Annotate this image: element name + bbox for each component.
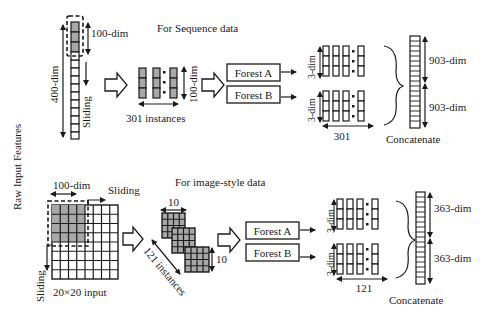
forest-b-class-vectors [323, 91, 364, 121]
concat-label: Concatenate [386, 133, 440, 145]
side-label: Raw Input Features [11, 124, 23, 210]
sliding-label: Sliding [80, 96, 92, 128]
image-forest-b-class-vectors [337, 244, 378, 274]
sequence-concat-vector [410, 36, 420, 128]
image-forest-a-label: Forest A [254, 225, 292, 237]
concat-brace [384, 46, 403, 125]
image-concat-vector [416, 192, 425, 284]
image-concat-top-dim: 363-dim [434, 202, 472, 214]
sliding-v-label: Sliding [34, 270, 46, 302]
image-concat-brace [396, 201, 415, 278]
image-window-dim-label: 100-dim [53, 179, 91, 191]
image-input-grid [52, 205, 118, 279]
instance-dim-label: 100-dim [187, 65, 199, 103]
flow-arrow-icon [123, 227, 143, 251]
image-section: For image-style data 100-dim Sliding Sli… [34, 176, 472, 306]
flow-arrow-icon [105, 73, 127, 97]
patch-width-label: 10 [168, 196, 180, 208]
forest-a-output-dim: 3-dim [306, 55, 317, 79]
sequence-section: For Sequence data 400-dim 100-dim [48, 16, 467, 145]
sliding-v-arrow [47, 245, 52, 270]
image-input-label: 20×20 input [53, 286, 107, 298]
window-dim-label: 100-dim [91, 27, 129, 39]
image-concat-label: Concatenate [389, 294, 443, 306]
image-forest-a-class-vectors [337, 199, 378, 229]
input-dim-label: 400-dim [48, 65, 60, 103]
concat-bottom-dim: 903-dim [429, 101, 467, 113]
image-patches [162, 213, 209, 272]
sequence-title: For Sequence data [157, 22, 238, 34]
flow-arrow-icon [202, 73, 224, 97]
sequence-instances [139, 68, 177, 98]
image-forest-b-label: Forest B [254, 247, 292, 259]
instances-label: 301 instances [126, 112, 186, 124]
forest-b-label: Forest B [235, 89, 273, 101]
sliding-h-label: Sliding [108, 184, 140, 196]
multi-grained-scanning-diagram: Raw Input Features For Sequence data 400… [0, 0, 487, 322]
forest-a-class-vectors [323, 46, 364, 76]
sequence-input-column [71, 22, 79, 139]
sliding-h-arrow [88, 200, 105, 205]
output-count-label: 301 [334, 130, 351, 142]
image-output-count-label: 121 [356, 282, 373, 294]
flow-arrow-icon [218, 228, 240, 252]
image-concat-bottom-dim: 363-dim [434, 252, 472, 264]
image-title: For image-style data [175, 176, 266, 188]
concat-top-dim: 903-dim [429, 54, 467, 66]
forest-a-label: Forest A [235, 67, 273, 79]
forest-b-output-dim: 3-dim [306, 98, 317, 122]
patch-height-label: 10 [216, 253, 228, 265]
